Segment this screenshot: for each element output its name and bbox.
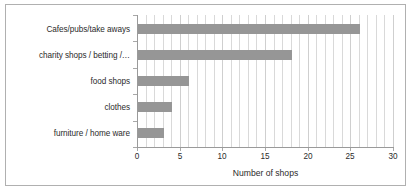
gridline-23 xyxy=(333,15,334,147)
chart-frame: Cafes/pubs/take aways charity shops / be… xyxy=(5,4,406,186)
gridline-12 xyxy=(239,15,240,147)
x-axis-tick-15 xyxy=(265,148,266,151)
gridline-28 xyxy=(376,15,377,147)
x-axis-tick-label-25: 25 xyxy=(335,152,365,162)
x-axis-tick-0 xyxy=(137,148,138,151)
y-axis-tick-2 xyxy=(133,68,137,69)
gridline-20 xyxy=(308,15,309,147)
gridline-30 xyxy=(393,15,394,147)
x-axis-tick-20 xyxy=(308,148,309,151)
y-axis-label-furniture-home-ware: furniture / home ware xyxy=(6,129,130,139)
bar-clothes xyxy=(138,102,172,112)
bar-furniture-home-ware xyxy=(138,128,164,138)
y-axis-label-food-shops: food shops xyxy=(6,77,130,87)
gridline-25 xyxy=(350,15,351,147)
x-axis-tick-5 xyxy=(180,148,181,151)
y-axis-label-clothes: clothes xyxy=(6,103,130,113)
gridline-8 xyxy=(205,15,206,147)
gridline-24 xyxy=(342,15,343,147)
bar-cafes-pubs-take-aways xyxy=(138,24,360,34)
gridline-26 xyxy=(359,15,360,147)
x-axis-tick-25 xyxy=(350,148,351,151)
gridline-9 xyxy=(214,15,215,147)
gridline-7 xyxy=(197,15,198,147)
x-axis-tick-label-20: 20 xyxy=(293,152,323,162)
gridline-14 xyxy=(256,15,257,147)
y-axis-tick-0 xyxy=(133,15,137,16)
gridline-29 xyxy=(384,15,385,147)
x-axis-tick-label-15: 15 xyxy=(250,152,280,162)
x-axis-tick-10 xyxy=(222,148,223,151)
x-axis-title: Number of shops xyxy=(137,168,394,179)
y-axis-label-charity-shops-betting: charity shops / betting /… xyxy=(6,51,130,61)
gridline-16 xyxy=(274,15,275,147)
gridline-27 xyxy=(367,15,368,147)
x-axis-tick-label-0: 0 xyxy=(122,152,152,162)
bar-food-shops xyxy=(138,76,189,86)
gridline-11 xyxy=(231,15,232,147)
gridline-13 xyxy=(248,15,249,147)
y-axis-line xyxy=(137,15,138,147)
plot-area xyxy=(137,15,393,147)
gridline-15 xyxy=(265,15,266,147)
y-axis-tick-1 xyxy=(133,41,137,42)
x-axis-tick-30 xyxy=(393,148,394,151)
y-axis-tick-3 xyxy=(133,94,137,95)
y-axis-label-cafes-pubs-take-aways: Cafes/pubs/take aways xyxy=(6,25,130,35)
gridline-18 xyxy=(291,15,292,147)
y-axis-category-labels: Cafes/pubs/take aways charity shops / be… xyxy=(6,5,134,187)
x-axis-tick-label-5: 5 xyxy=(165,152,195,162)
gridline-10 xyxy=(222,15,223,147)
gridline-22 xyxy=(325,15,326,147)
x-axis-tick-label-30: 30 xyxy=(378,152,408,162)
y-axis-tick-4 xyxy=(133,121,137,122)
bar-charity-shops-betting xyxy=(138,50,292,60)
y-axis-tick-5 xyxy=(133,147,137,148)
gridline-17 xyxy=(282,15,283,147)
x-axis-tick-label-10: 10 xyxy=(207,152,237,162)
gridline-19 xyxy=(299,15,300,147)
gridline-21 xyxy=(316,15,317,147)
